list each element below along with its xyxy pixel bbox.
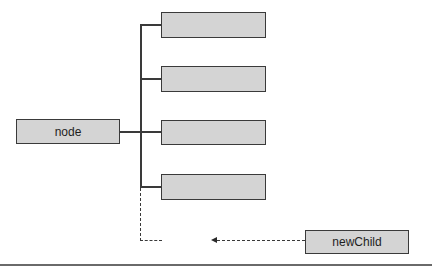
- bottom-rule: [0, 264, 432, 266]
- child-node-box-2: [161, 66, 266, 92]
- parent-node-label: node: [55, 125, 82, 139]
- child-connector-3: [140, 131, 161, 133]
- parent-connector: [120, 131, 141, 133]
- tree-trunk: [140, 24, 142, 187]
- child-connector-2: [140, 78, 161, 80]
- new-slot-dashed-trunk: [140, 188, 141, 241]
- new-child-label: newChild: [332, 235, 381, 249]
- child-node-box-4: [161, 174, 266, 200]
- new-slot-dashed-branch: [140, 240, 162, 241]
- insert-arrow-line: [217, 240, 305, 241]
- parent-node-box: node: [16, 119, 120, 144]
- child-connector-4: [140, 186, 161, 188]
- child-node-box-1: [161, 12, 266, 38]
- child-node-box-3: [161, 120, 266, 145]
- new-child-box: newChild: [305, 230, 409, 254]
- child-connector-1: [140, 24, 161, 26]
